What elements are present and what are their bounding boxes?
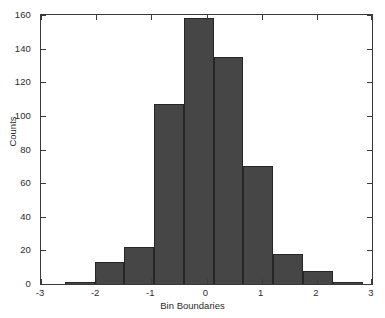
x-tick-mark — [262, 15, 263, 20]
x-tick-mark — [207, 279, 208, 284]
histogram-bar — [214, 57, 244, 284]
x-tick-mark — [41, 15, 42, 20]
x-tick-mark — [262, 279, 263, 284]
y-axis-ticklabels: 020406080100120140160 — [0, 0, 36, 318]
histogram-figure: 020406080100120140160 Counts Bin Boundar… — [0, 0, 385, 318]
y-tick-label: 120 — [15, 76, 31, 87]
x-tick-mark — [96, 279, 97, 284]
y-tick-mark — [367, 49, 372, 50]
y-tick-label: 40 — [20, 210, 31, 221]
y-tick-mark — [41, 284, 46, 285]
y-tick-mark — [367, 217, 372, 218]
y-tick-mark — [41, 150, 46, 151]
x-tick-mark — [41, 279, 42, 284]
x-tick-mark — [371, 15, 372, 20]
y-tick-mark — [367, 150, 372, 151]
x-tick-mark — [317, 15, 318, 20]
y-tick-label: 140 — [15, 42, 31, 53]
y-tick-mark — [41, 116, 46, 117]
x-tick-mark — [317, 279, 318, 284]
y-tick-label: 60 — [20, 177, 31, 188]
y-tick-mark — [367, 183, 372, 184]
y-axis-title: Counts — [7, 102, 18, 162]
x-tick-label: 0 — [203, 287, 208, 298]
y-tick-label: 0 — [26, 278, 31, 289]
y-tick-label: 20 — [20, 244, 31, 255]
y-tick-label: 80 — [20, 143, 31, 154]
x-tick-label: 1 — [258, 287, 263, 298]
y-tick-mark — [367, 82, 372, 83]
x-axis-title: Bin Boundaries — [0, 300, 385, 311]
histogram-bar — [184, 18, 214, 284]
y-tick-mark — [41, 82, 46, 83]
y-tick-mark — [41, 183, 46, 184]
histogram-bar — [273, 254, 303, 284]
x-tick-label: 2 — [313, 287, 318, 298]
y-tick-mark — [367, 116, 372, 117]
histogram-bar — [333, 282, 363, 284]
x-tick-label: -3 — [36, 287, 44, 298]
x-tick-mark — [151, 15, 152, 20]
histogram-bar — [154, 104, 184, 284]
x-tick-label: 3 — [368, 287, 373, 298]
y-tick-mark — [41, 217, 46, 218]
y-tick-mark — [41, 49, 46, 50]
histogram-bar — [65, 282, 95, 284]
x-tick-label: -2 — [91, 287, 99, 298]
y-tick-label: 160 — [15, 9, 31, 20]
x-tick-mark — [151, 279, 152, 284]
y-tick-mark — [367, 284, 372, 285]
histogram-bar — [303, 271, 333, 284]
histogram-bars — [41, 15, 372, 284]
histogram-bar — [124, 247, 154, 284]
y-tick-mark — [367, 250, 372, 251]
x-tick-mark — [96, 15, 97, 20]
y-tick-mark — [41, 250, 46, 251]
x-tick-mark — [371, 279, 372, 284]
plot-area — [40, 14, 373, 285]
histogram-bar — [243, 166, 273, 284]
histogram-bar — [95, 262, 125, 284]
x-tick-mark — [207, 15, 208, 20]
x-tick-label: -1 — [146, 287, 154, 298]
